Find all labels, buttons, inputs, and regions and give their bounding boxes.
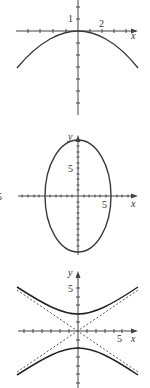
x-tick-label: 2 bbox=[99, 18, 104, 29]
x-tick-label: 5 bbox=[117, 333, 122, 344]
x-tick-label: 5 bbox=[102, 199, 107, 210]
graph-parabola: 1 2 x bbox=[0, 0, 150, 120]
y-axis-label: y bbox=[67, 131, 73, 142]
edge-label: 5 bbox=[0, 191, 2, 202]
y-axis-arrow-icon bbox=[76, 271, 81, 278]
x-axis-label: x bbox=[130, 333, 136, 344]
graph-hyperbola: y 5 5 x bbox=[0, 260, 150, 388]
graph-ellipse: 5 bbox=[0, 130, 150, 255]
x-axis-label: x bbox=[130, 198, 136, 209]
y-tick-label: 5 bbox=[68, 163, 73, 174]
x-axis-label: x bbox=[130, 30, 136, 41]
y-tick-label: 5 bbox=[68, 283, 73, 294]
x-axis bbox=[18, 195, 134, 198]
y-axis bbox=[76, 276, 80, 388]
y-axis bbox=[77, 140, 80, 255]
y-axis bbox=[76, 0, 80, 115]
y-axis-label: y bbox=[67, 267, 73, 278]
y-tick-label: 1 bbox=[68, 13, 73, 24]
y-axis-arrow-icon bbox=[76, 135, 81, 142]
